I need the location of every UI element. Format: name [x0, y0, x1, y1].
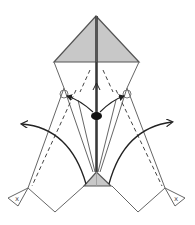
right-swing-arrow	[109, 122, 172, 184]
left-pivot-circle	[60, 90, 68, 98]
left-swing-arrow	[22, 124, 86, 184]
svg-text:x: x	[15, 195, 19, 203]
right-hinge-mark: x	[165, 188, 185, 206]
origami-diagram: x x origami-fold-step	[0, 0, 195, 225]
svg-text:x: x	[174, 195, 178, 203]
left-hinge-mark: x	[8, 188, 28, 206]
bottom-flap	[84, 172, 111, 186]
hold-point-dot	[91, 112, 102, 120]
